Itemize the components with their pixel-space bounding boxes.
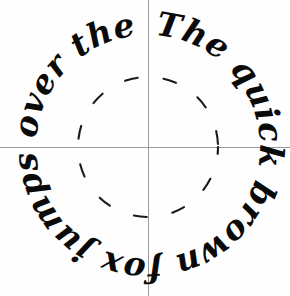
calligraphy-specimen-canvas: The quick brown fox jumps over the lazy … (0, 0, 290, 296)
pangram-textpath: The quick brown fox jumps over the lazy … (0, 0, 290, 290)
pangram-text-layer: The quick brown fox jumps over the lazy … (0, 0, 290, 296)
circular-pangram-text: The quick brown fox jumps over the lazy … (0, 0, 290, 290)
